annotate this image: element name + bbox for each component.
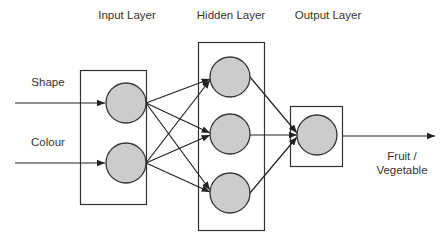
hidden-node-3	[210, 173, 250, 213]
input-node-2	[106, 143, 146, 183]
input-label-shape: Shape	[31, 76, 64, 88]
input-hidden-connections	[146, 79, 210, 192]
neural-network-diagram: Input Layer Hidden Layer Output Layer Sh…	[0, 0, 445, 240]
input-layer-title: Input Layer	[98, 9, 156, 21]
hidden-layer-title: Hidden Layer	[197, 9, 266, 21]
hidden-output-connections	[250, 77, 297, 193]
output-label-line2: Vegetable	[376, 164, 427, 176]
input-label-colour: Colour	[31, 136, 65, 148]
output-label-line1: Fruit /	[387, 150, 417, 162]
hidden-node-1	[210, 57, 250, 97]
input-node-1	[106, 83, 146, 123]
output-node-1	[297, 115, 337, 155]
hidden-node-2	[210, 114, 250, 154]
output-layer-title: Output Layer	[295, 9, 362, 21]
